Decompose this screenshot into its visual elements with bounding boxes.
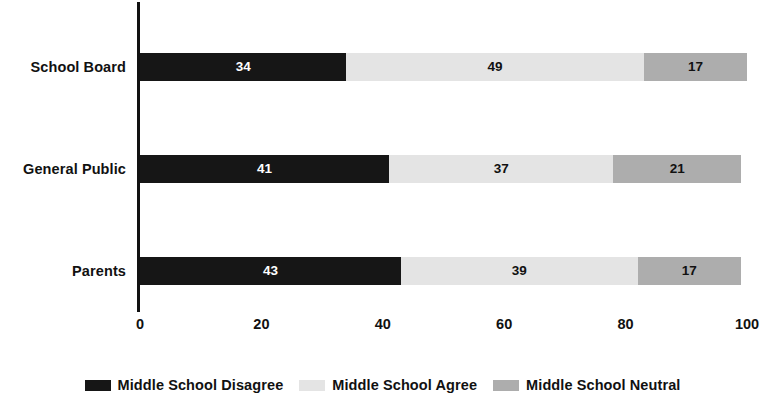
bar-segment-disagree[interactable]: 43 [140,257,401,285]
bar-track: 34 49 17 [140,53,747,81]
legend-swatch-icon [85,380,111,391]
legend-label: Middle School Agree [332,377,477,393]
x-axis-tick-label: 0 [110,316,170,332]
bar-segment-value: 49 [346,53,643,81]
x-axis-tick-label: 100 [717,316,765,332]
bar-row: General Public 41 37 21 [0,155,765,183]
bar-segment-value: 41 [140,155,389,183]
category-label: General Public [0,155,126,183]
category-label: Parents [0,257,126,285]
bar-row: School Board 34 49 17 [0,53,765,81]
bar-segment-value: 39 [401,257,638,285]
bar-track: 41 37 21 [140,155,747,183]
category-label: School Board [0,53,126,81]
bar-segment-agree[interactable]: 37 [389,155,614,183]
legend-item-disagree[interactable]: Middle School Disagree [85,377,284,393]
x-axis: 0 20 40 60 80 100 [0,316,765,342]
bar-segment-neutral[interactable]: 21 [613,155,740,183]
bar-segment-value: 37 [389,155,614,183]
legend-label: Middle School Disagree [118,377,284,393]
bar-segment-value: 21 [613,155,740,183]
legend-swatch-icon [493,380,519,391]
legend-item-neutral[interactable]: Middle School Neutral [493,377,680,393]
plot-area: School Board 34 49 17 General Public 41 [0,0,765,312]
x-axis-tick-origin [137,300,140,312]
bar-track: 43 39 17 [140,257,747,285]
x-axis-tick-label: 40 [353,316,413,332]
chart-legend: Middle School Disagree Middle School Agr… [0,372,765,398]
bar-segment-value: 17 [638,257,741,285]
bar-segment-value: 17 [644,53,747,81]
bar-segment-disagree[interactable]: 34 [140,53,346,81]
stacked-bar-chart: School Board 34 49 17 General Public 41 [0,0,765,406]
bar-row: Parents 43 39 17 [0,257,765,285]
x-axis-tick-label: 80 [596,316,656,332]
bar-segment-value: 34 [140,53,346,81]
legend-item-agree[interactable]: Middle School Agree [299,377,477,393]
bar-segment-disagree[interactable]: 41 [140,155,389,183]
bar-segment-agree[interactable]: 39 [401,257,638,285]
bar-segment-neutral[interactable]: 17 [644,53,747,81]
bar-segment-agree[interactable]: 49 [346,53,643,81]
bar-segment-value: 43 [140,257,401,285]
bar-segment-neutral[interactable]: 17 [638,257,741,285]
legend-swatch-icon [299,380,325,391]
x-axis-tick-label: 60 [474,316,534,332]
x-axis-tick-label: 20 [231,316,291,332]
legend-label: Middle School Neutral [526,377,680,393]
